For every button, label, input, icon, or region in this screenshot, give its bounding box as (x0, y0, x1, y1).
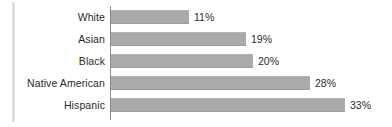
category-label: Native American (27, 72, 105, 94)
bar-row: White11% (0, 6, 392, 28)
category-label: Asian (78, 28, 105, 50)
bar-chart: White11%Asian19%Black20%Native American2… (0, 0, 392, 127)
bar-row: Asian19% (0, 28, 392, 50)
bar-value-label: 11% (194, 6, 214, 28)
bar (111, 32, 246, 46)
plot-area: White11%Asian19%Black20%Native American2… (0, 0, 392, 127)
category-label: White (78, 6, 105, 28)
bar-value-label: 19% (251, 28, 272, 50)
category-label: Hispanic (64, 94, 105, 116)
bar (111, 54, 253, 68)
bar-row: Black20% (0, 50, 392, 72)
bar-value-label: 20% (258, 50, 279, 72)
bar-row: Native American28% (0, 72, 392, 94)
bar (111, 98, 345, 112)
bar (111, 10, 189, 24)
category-label: Black (79, 50, 105, 72)
bar-value-label: 33% (350, 94, 371, 116)
bar (111, 76, 310, 90)
bar-row: Hispanic33% (0, 94, 392, 116)
bar-value-label: 28% (315, 72, 336, 94)
